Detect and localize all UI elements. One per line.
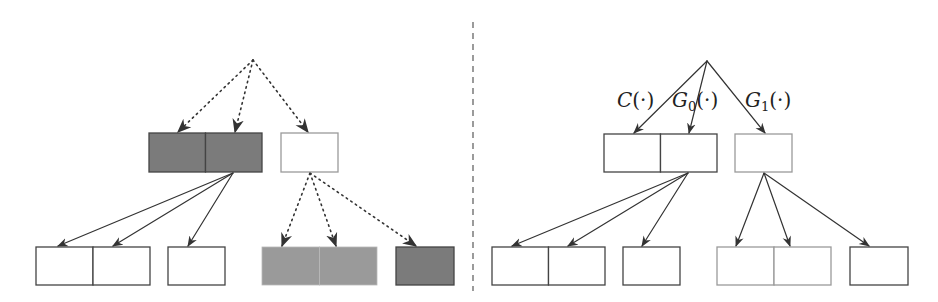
node-cell bbox=[623, 247, 680, 285]
dotted-arrow-edge bbox=[310, 173, 416, 246]
node-cell bbox=[149, 133, 206, 172]
level1-node-r1-single bbox=[735, 134, 792, 172]
level2-node-l2-pair-b bbox=[262, 247, 377, 285]
dotted-arrow-edge bbox=[253, 60, 308, 132]
dotted-arrow-edge bbox=[310, 173, 336, 246]
level2-node-r2-single-b bbox=[850, 247, 908, 285]
node-cell bbox=[717, 247, 774, 285]
node-cell bbox=[320, 247, 378, 285]
node-cell bbox=[168, 247, 225, 285]
solid-arrow-edge bbox=[58, 173, 233, 246]
level1-node-l1-single bbox=[281, 133, 338, 172]
solid-arrow-edge bbox=[764, 173, 869, 246]
level2-node-l2-pair-a bbox=[36, 247, 150, 285]
level1-node-l1-pair bbox=[149, 133, 262, 172]
node-cell bbox=[396, 247, 454, 285]
solid-arrow-edge bbox=[512, 173, 688, 246]
level2-node-l2-single-b bbox=[396, 247, 454, 285]
node-cell bbox=[262, 247, 320, 285]
left-tree-nodes bbox=[36, 133, 454, 285]
level2-node-r2-pair-a bbox=[492, 247, 605, 285]
solid-arrow-edge bbox=[736, 173, 764, 246]
node-cell bbox=[549, 247, 606, 285]
node-cell bbox=[206, 133, 263, 172]
dotted-arrow-edge bbox=[235, 60, 253, 132]
node-cell bbox=[36, 247, 93, 285]
right-tree: C(·)G0(·)G1(·) bbox=[492, 61, 908, 285]
right-tree-nodes bbox=[492, 134, 908, 285]
level1-node-r1-pair bbox=[604, 134, 717, 172]
node-cell bbox=[492, 247, 549, 285]
left-tree bbox=[36, 60, 454, 285]
dotted-arrow-edge bbox=[282, 173, 310, 246]
solid-arrow-edge bbox=[568, 173, 688, 246]
level2-node-r2-single-a bbox=[623, 247, 680, 285]
node-cell bbox=[93, 247, 150, 285]
solid-arrow-edge bbox=[188, 173, 233, 246]
dotted-arrow-edge bbox=[178, 60, 253, 132]
solid-arrow-edge bbox=[642, 173, 688, 246]
solid-arrow-edge bbox=[764, 173, 790, 246]
right-tree-function-labels: C(·)G0(·)G1(·) bbox=[617, 88, 791, 114]
node-cell bbox=[774, 247, 831, 285]
label-c: C(·) bbox=[617, 88, 654, 112]
node-cell bbox=[661, 134, 718, 172]
node-cell bbox=[281, 133, 338, 172]
level2-node-l2-single-a bbox=[168, 247, 225, 285]
level2-node-r2-pair-b bbox=[717, 247, 831, 285]
tree-comparison-diagram: C(·)G0(·)G1(·) bbox=[0, 0, 938, 302]
label-g1: G1(·) bbox=[745, 88, 791, 114]
node-cell bbox=[850, 247, 908, 285]
label-g0: G0(·) bbox=[672, 88, 718, 114]
node-cell bbox=[604, 134, 661, 172]
node-cell bbox=[735, 134, 792, 172]
solid-arrow-edge bbox=[113, 173, 233, 246]
